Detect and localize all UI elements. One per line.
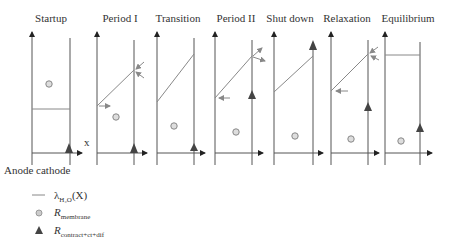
contact-resistance-triangle-icon bbox=[130, 143, 138, 153]
membrane-resistance-circle-icon bbox=[348, 136, 354, 142]
contact-resistance-triangle-icon bbox=[190, 143, 198, 151]
fuel-cell-water-profile-diagram: Startup Period I Transition Period II Sh… bbox=[0, 0, 455, 248]
contact-resistance-triangle-icon bbox=[65, 143, 73, 153]
incoming-arrow-icon bbox=[136, 72, 144, 78]
contact-resistance-triangle-icon bbox=[248, 90, 256, 99]
membrane-resistance-circle-icon bbox=[171, 123, 177, 129]
panel-title-equilibrium: Equilibrium bbox=[381, 12, 435, 24]
water-content-line bbox=[215, 56, 252, 98]
panel-equilibrium bbox=[385, 32, 432, 165]
panel-shut-down bbox=[274, 32, 323, 165]
panel-title-relaxation: Relaxation bbox=[323, 12, 371, 24]
panel-title-startup: Startup bbox=[35, 12, 67, 24]
legend-line-label: λH₂O(X) bbox=[54, 189, 88, 204]
incoming-arrow-icon bbox=[370, 47, 378, 53]
membrane-resistance-circle-icon bbox=[233, 129, 239, 135]
membrane-resistance-circle-icon bbox=[46, 81, 52, 87]
water-content-line bbox=[157, 54, 194, 102]
incoming-arrow-icon bbox=[371, 56, 379, 60]
panel-title-transition: Transition bbox=[156, 12, 201, 24]
panel-title-period-1: Period I bbox=[102, 12, 137, 24]
incoming-arrow-icon bbox=[136, 62, 144, 69]
x-axis-label: x bbox=[84, 136, 90, 148]
legend-triangle-icon bbox=[35, 226, 43, 234]
legend-contract-label: Rcontract+ct+dif bbox=[53, 224, 105, 239]
membrane-resistance-circle-icon bbox=[292, 133, 298, 139]
panel-relaxation bbox=[331, 32, 379, 165]
outgoing-arrow-icon bbox=[253, 57, 265, 61]
electrode-label: Anode cathode bbox=[4, 164, 70, 176]
contact-resistance-triangle-icon bbox=[416, 123, 424, 132]
membrane-resistance-circle-icon bbox=[398, 138, 404, 144]
water-content-line bbox=[97, 70, 134, 106]
panel-transition bbox=[157, 32, 205, 165]
panel-startup: x bbox=[32, 32, 90, 165]
panel-title-period-2: Period II bbox=[217, 12, 256, 24]
outgoing-arrow-icon bbox=[253, 48, 262, 56]
legend-membrane-label: Rmembrane bbox=[53, 206, 90, 221]
panel-title-shut-down: Shut down bbox=[266, 12, 314, 24]
contact-resistance-triangle-icon bbox=[309, 40, 317, 50]
panel-period-1 bbox=[97, 32, 147, 165]
membrane-resistance-circle-icon bbox=[113, 114, 119, 120]
legend: λH₂O(X) Rmembrane Rcontract+ct+dif bbox=[32, 189, 105, 239]
legend-circle-icon bbox=[36, 210, 42, 216]
contact-resistance-triangle-icon bbox=[364, 102, 372, 111]
water-content-line bbox=[274, 56, 313, 92]
panel-period-2 bbox=[215, 32, 265, 165]
water-content-line bbox=[331, 54, 368, 91]
